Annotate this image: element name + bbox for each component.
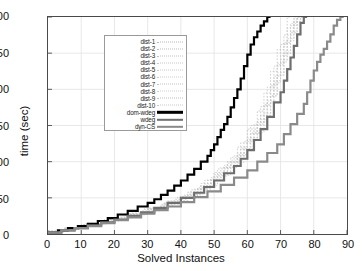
legend-label-dist-3: dist-3	[141, 52, 158, 59]
y-axis-title: time (sec)	[18, 83, 30, 179]
legend-swatch-dist-3	[157, 52, 184, 59]
legend-label-wdeg: wdeg	[141, 116, 157, 123]
legend-swatch-dist-4	[157, 59, 184, 66]
legend-swatch-dist-5	[157, 66, 184, 73]
legend-swatch-dist-9	[157, 95, 184, 102]
legend-item-dist-8: dist-8	[105, 88, 184, 95]
legend-swatch-dom-wdeg	[157, 109, 184, 116]
legend-label-dist-6: dist-6	[141, 73, 158, 80]
legend-item-dist-2: dist-2	[105, 45, 184, 52]
legend-swatch-dyn-CS	[157, 123, 184, 130]
y-tick-150: 150	[0, 120, 9, 132]
x-axis-title: Solved Instances	[0, 252, 362, 264]
legend-swatch-dist-10	[157, 102, 184, 109]
legend: dist-1dist-2dist-3dist-4dist-5dist-6dist…	[104, 35, 187, 131]
legend-swatch-dist-6	[157, 74, 184, 81]
x-tick-80: 80	[308, 238, 320, 250]
x-tick-40: 40	[175, 238, 187, 250]
legend-item-wdeg: wdeg	[105, 116, 184, 123]
legend-swatch-dist-1	[157, 38, 184, 45]
y-tick-300: 300	[0, 10, 9, 22]
legend-swatch-wdeg	[157, 116, 184, 123]
x-tick-60: 60	[242, 238, 254, 250]
y-tick-100: 100	[0, 156, 9, 168]
legend-label-dist-9: dist-9	[141, 95, 158, 102]
x-tick-50: 50	[208, 238, 220, 250]
legend-item-dist-7: dist-7	[105, 81, 184, 88]
y-tick-200: 200	[0, 83, 9, 95]
x-tick-0: 0	[44, 238, 50, 250]
legend-swatch-dist-2	[157, 45, 184, 52]
legend-item-dyn-CS: dyn-CS	[105, 123, 184, 130]
legend-label-dist-5: dist-5	[141, 66, 158, 73]
legend-label-dom-wdeg: dom-wdeg	[127, 109, 157, 116]
series-line-dyn-CS	[48, 17, 344, 234]
legend-item-dist-5: dist-5	[105, 66, 184, 73]
legend-item-dist-1: dist-1	[105, 38, 184, 45]
y-tick-0: 0	[3, 229, 9, 241]
x-tick-20: 20	[108, 238, 120, 250]
legend-label-dist-8: dist-8	[141, 88, 158, 95]
x-tick-90: 90	[342, 238, 354, 250]
legend-item-dist-3: dist-3	[105, 52, 184, 59]
x-tick-30: 30	[141, 238, 153, 250]
legend-label-dist-10: dist-10	[137, 102, 157, 109]
legend-label-dist-1: dist-1	[141, 38, 158, 45]
legend-label-dist-2: dist-2	[141, 45, 158, 52]
y-tick-250: 250	[0, 47, 9, 59]
legend-label-dyn-CS: dyn-CS	[135, 123, 157, 130]
legend-swatch-dist-8	[157, 88, 184, 95]
legend-label-dist-7: dist-7	[141, 81, 158, 88]
series-lines	[48, 17, 347, 234]
x-tick-70: 70	[275, 238, 287, 250]
legend-item-dist-6: dist-6	[105, 73, 184, 80]
x-tick-10: 10	[74, 238, 86, 250]
legend-item-dist-4: dist-4	[105, 59, 184, 66]
legend-swatch-dist-7	[157, 81, 184, 88]
y-tick-50: 50	[0, 193, 9, 205]
plot-area: dist-1dist-2dist-3dist-4dist-5dist-6dist…	[47, 16, 348, 235]
legend-item-dist-10: dist-10	[105, 102, 184, 109]
legend-item-dist-9: dist-9	[105, 95, 184, 102]
pcost-chart-figure: time (sec) 050100150200250300 dist-1dist…	[0, 0, 362, 271]
legend-item-dom-wdeg: dom-wdeg	[105, 109, 184, 116]
legend-label-dist-4: dist-4	[141, 59, 158, 66]
